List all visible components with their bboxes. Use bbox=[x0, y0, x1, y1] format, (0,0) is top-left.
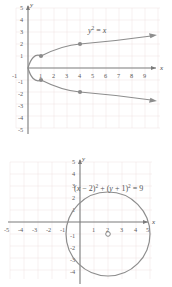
circle-xtick--1: -1 bbox=[60, 226, 65, 233]
parabola-ytick-5: 5 bbox=[20, 4, 23, 11]
circle-axes bbox=[8, 160, 148, 284]
circle-xtick-3: 3 bbox=[120, 226, 123, 233]
parabola-x-axis-label: x bbox=[159, 64, 164, 72]
parabola-xtick-5: 5 bbox=[91, 72, 94, 79]
parabola-point-1-neg1 bbox=[39, 78, 43, 82]
parabola-xtick-8: 8 bbox=[130, 72, 133, 79]
parabola-ytick--4: -4 bbox=[18, 114, 24, 121]
circle-ytick-2: 2 bbox=[72, 194, 75, 201]
figure-circle: x y -5 -4 -3 -2 -1 1 2 3 4 5 5 4 3 2 1 -… bbox=[0, 144, 172, 287]
parabola-ytick--1: -1 bbox=[18, 78, 23, 85]
parabola-svg: x y -1 1 2 3 4 5 6 7 8 9 5 4 3 2 1 -1 -2… bbox=[0, 0, 172, 144]
circle-center-point bbox=[106, 232, 111, 237]
circle-ytick--1: -1 bbox=[70, 232, 75, 239]
circle-x-axis-label: x bbox=[151, 218, 156, 226]
circle-xtick-4: 4 bbox=[134, 226, 138, 233]
figure-parabola: x y -1 1 2 3 4 5 6 7 8 9 5 4 3 2 1 -1 -2… bbox=[0, 0, 172, 144]
circle-xtick--5: -5 bbox=[4, 226, 9, 233]
parabola-ytick--2: -2 bbox=[18, 90, 23, 97]
circle-ytick--4: -4 bbox=[70, 268, 76, 275]
circle-eq-plus: + ( bbox=[98, 184, 110, 193]
figures-page: x y -1 1 2 3 4 5 6 7 8 9 5 4 3 2 1 -1 -2… bbox=[0, 0, 172, 287]
circle-ytick--2: -2 bbox=[70, 244, 75, 251]
parabola-point-4-2 bbox=[78, 42, 82, 46]
x-axis-arrow-icon bbox=[151, 66, 156, 70]
circle-eq-p2: − 2) bbox=[80, 184, 96, 193]
circle-ytick-5: 5 bbox=[72, 158, 75, 165]
parabola-equation-label: y2 = x bbox=[87, 25, 107, 35]
circle-svg: x y -5 -4 -3 -2 -1 1 2 3 4 5 5 4 3 2 1 -… bbox=[0, 144, 172, 287]
parabola-xtick-9: 9 bbox=[143, 72, 146, 79]
parabola-ytick-3: 3 bbox=[20, 28, 23, 35]
parabola-lower-arrow-icon bbox=[149, 98, 157, 103]
circle-xtick-5: 5 bbox=[146, 226, 149, 233]
parabola-eq-rhs: x bbox=[102, 26, 107, 35]
circle-xtick--3: -3 bbox=[32, 226, 37, 233]
circle-equation-label: (x − 2)2 + (y + 1)2 = 9 bbox=[74, 183, 143, 193]
parabola-upper-arrow-icon bbox=[149, 33, 157, 38]
parabola-eq-rel: = bbox=[94, 26, 103, 35]
parabola-ytick-1: 1 bbox=[20, 52, 23, 59]
parabola-ytick-4: 4 bbox=[20, 16, 24, 23]
circle-ytick-4: 4 bbox=[72, 170, 76, 177]
parabola-ytick--5: -5 bbox=[18, 126, 23, 133]
parabola-point-4-neg2 bbox=[78, 90, 82, 94]
parabola-xtick-6: 6 bbox=[104, 72, 107, 79]
parabola-xtick-3: 3 bbox=[65, 72, 68, 79]
circle-xtick--4: -4 bbox=[18, 226, 24, 233]
parabola-ytick-2: 2 bbox=[20, 40, 23, 47]
circle-eq-p3: + 1) bbox=[113, 184, 129, 193]
circle-eq-rel: = 9 bbox=[131, 184, 144, 193]
parabola-ytick--3: -3 bbox=[18, 102, 23, 109]
circle-xtick-1: 1 bbox=[92, 226, 95, 233]
circle-xtick--2: -2 bbox=[46, 226, 51, 233]
circle-grid bbox=[10, 162, 152, 279]
parabola-xtick-7: 7 bbox=[117, 72, 120, 79]
parabola-xtick-2: 2 bbox=[52, 72, 55, 79]
parabola-point-1-1 bbox=[39, 54, 43, 58]
parabola-xtick--1: -1 bbox=[12, 72, 17, 79]
parabola-xtick-4: 4 bbox=[78, 72, 82, 79]
